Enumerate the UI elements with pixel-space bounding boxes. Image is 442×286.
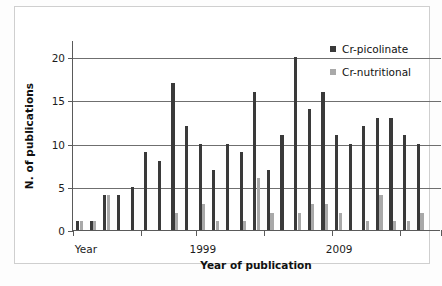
bar-cr-nutritional xyxy=(311,204,314,230)
legend-swatch-icon xyxy=(330,69,336,75)
x-axis-tick xyxy=(400,230,401,236)
bar-cr-nutritional xyxy=(379,195,382,230)
bar-cr-nutritional xyxy=(339,213,342,230)
bar-group xyxy=(294,41,304,230)
bar-cr-picolinate xyxy=(280,135,283,230)
bar-cr-nutritional xyxy=(93,221,96,230)
bar-group xyxy=(117,41,127,230)
x-axis-title: Year of publication xyxy=(72,259,440,271)
bar-cr-nutritional xyxy=(216,221,219,230)
x-axis-tick-label: Year xyxy=(75,243,97,255)
bar-group xyxy=(226,41,236,230)
y-axis-tick xyxy=(68,101,73,102)
bar-group xyxy=(131,41,141,230)
bar-cr-nutritional xyxy=(202,204,205,230)
bar-group xyxy=(280,41,290,230)
bar-cr-picolinate xyxy=(226,144,229,230)
bar-cr-nutritional xyxy=(298,213,301,230)
bar-cr-picolinate xyxy=(362,126,365,230)
bar-cr-nutritional xyxy=(325,204,328,230)
bar-cr-nutritional xyxy=(270,213,273,230)
bar-cr-nutritional xyxy=(107,195,110,230)
y-axis-tick-label: 10 xyxy=(52,139,65,151)
bar-cr-nutritional xyxy=(407,221,410,230)
y-axis-tick xyxy=(68,58,73,59)
bar-cr-picolinate xyxy=(131,187,134,230)
legend-item-cr-nutritional: Cr-nutritional xyxy=(330,66,411,78)
bar-cr-picolinate xyxy=(294,57,297,230)
bar-group xyxy=(308,41,318,230)
x-axis-tick xyxy=(332,230,333,236)
chart-figure: N. of publications 05101520 Year19992009… xyxy=(0,0,442,286)
y-axis-title: N. of publications xyxy=(23,83,35,189)
bar-group xyxy=(199,41,209,230)
bar-cr-nutritional xyxy=(257,178,260,230)
bar-group xyxy=(240,41,250,230)
bar-cr-nutritional xyxy=(175,213,178,230)
bar-cr-picolinate xyxy=(349,144,352,230)
x-axis-tick xyxy=(264,230,265,236)
bar-cr-nutritional xyxy=(420,213,423,230)
bar-group xyxy=(430,41,440,230)
bar-group xyxy=(158,41,168,230)
bar-cr-picolinate xyxy=(185,126,188,230)
bar-group xyxy=(103,41,113,230)
legend-label: Cr-picolinate xyxy=(342,43,408,55)
x-axis-tick-label: 1999 xyxy=(189,243,216,255)
bar-cr-nutritional xyxy=(80,221,83,230)
bar-cr-picolinate xyxy=(389,118,392,230)
bar-group xyxy=(212,41,222,230)
bar-cr-picolinate xyxy=(403,135,406,230)
bar-cr-picolinate xyxy=(240,152,243,230)
y-axis-tick-label: 0 xyxy=(58,225,65,237)
y-axis-tick-label: 5 xyxy=(58,182,65,194)
bar-group xyxy=(417,41,427,230)
bar-group xyxy=(76,41,86,230)
x-axis-tick xyxy=(196,230,197,236)
bar-group xyxy=(253,41,263,230)
bar-group xyxy=(185,41,195,230)
bar-cr-nutritional xyxy=(243,221,246,230)
bar-group xyxy=(90,41,100,230)
chart-legend: Cr-picolinate Cr-nutritional xyxy=(330,43,411,89)
bar-cr-picolinate xyxy=(117,195,120,230)
y-axis-tick xyxy=(68,188,73,189)
x-axis-tick xyxy=(141,230,142,236)
bar-group xyxy=(144,41,154,230)
bar-cr-picolinate xyxy=(171,83,174,230)
chart-frame: N. of publications 05101520 Year19992009… xyxy=(14,6,430,264)
bar-cr-nutritional xyxy=(366,221,369,230)
x-axis-tick xyxy=(73,230,74,236)
bar-group xyxy=(171,41,181,230)
bar-cr-nutritional xyxy=(393,221,396,230)
y-axis-tick-label: 20 xyxy=(52,52,65,64)
legend-swatch-icon xyxy=(330,46,336,52)
y-axis-tick-label: 15 xyxy=(52,95,65,107)
bar-cr-picolinate xyxy=(144,152,147,230)
x-axis-tick-label: 2009 xyxy=(326,243,353,255)
legend-label: Cr-nutritional xyxy=(342,66,411,78)
bar-group xyxy=(267,41,277,230)
y-axis-tick xyxy=(68,145,73,146)
bar-cr-picolinate xyxy=(158,161,161,230)
legend-item-cr-picolinate: Cr-picolinate xyxy=(330,43,411,55)
